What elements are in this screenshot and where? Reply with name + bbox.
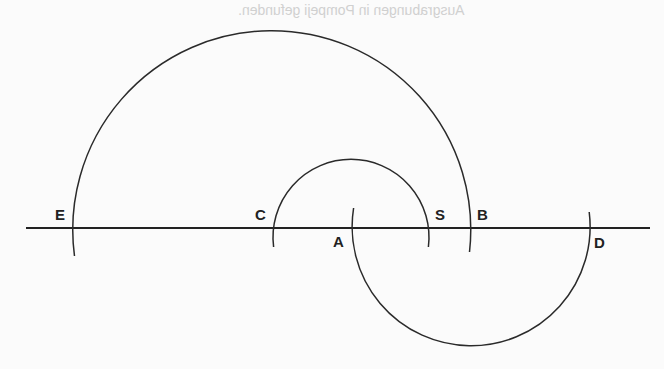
label-a: A xyxy=(333,234,344,249)
small-upper-arc xyxy=(273,159,429,247)
label-c: C xyxy=(255,207,266,222)
label-e: E xyxy=(55,207,65,222)
geometry-diagram xyxy=(0,0,664,369)
large-upper-arc xyxy=(73,31,471,256)
label-s: S xyxy=(435,207,445,222)
label-b: B xyxy=(477,207,488,222)
label-d: D xyxy=(594,235,605,250)
